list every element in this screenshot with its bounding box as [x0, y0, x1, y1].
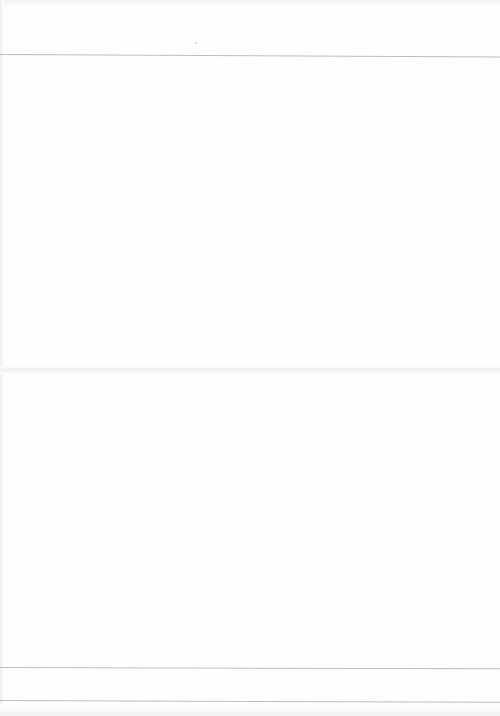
page-fold-line: [0, 366, 500, 374]
footer-rule-1: [0, 667, 500, 669]
page-top-edge: [0, 0, 500, 8]
page-left-edge: [0, 0, 4, 716]
dust-speck: [195, 42, 197, 44]
page-bottom-edge: [0, 704, 500, 716]
header-rule: [0, 54, 500, 58]
footer-rule-2: [0, 700, 500, 703]
scanned-page: [0, 0, 500, 716]
